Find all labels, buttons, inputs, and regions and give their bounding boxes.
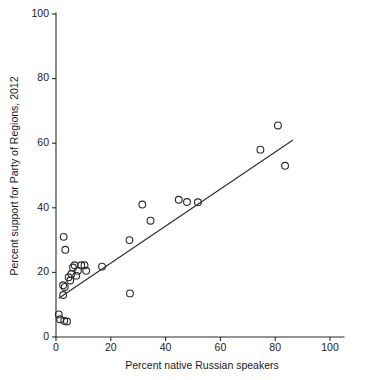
regression-line-group [59,140,293,298]
y-tick-label: 60 [37,136,49,148]
axes-group [56,13,344,337]
x-axis-label: Percent native Russian speakers [125,359,279,371]
scatter-chart: 020406080100 020406080100 Percent native… [0,0,367,380]
data-points-group [55,122,288,325]
data-point [147,217,154,224]
data-point [126,237,133,244]
y-tick-label: 20 [37,265,49,277]
data-point [60,282,67,289]
data-point [61,284,68,291]
x-tick-group: 020406080100 [53,337,339,353]
x-tick-label: 100 [321,341,339,353]
y-tick-label: 40 [37,201,49,213]
data-point [57,316,64,323]
y-tick-label: 80 [37,71,49,83]
y-tick-label: 100 [31,7,49,19]
regression-line [59,140,293,298]
data-point [184,199,191,206]
data-point [175,196,182,203]
y-tick-label: 0 [43,330,49,342]
data-point [282,162,289,169]
x-tick-label: 60 [215,341,227,353]
x-tick-label: 0 [53,341,59,353]
x-tick-label: 80 [269,341,281,353]
y-tick-group: 020406080100 [31,7,56,342]
data-point [70,264,77,271]
data-point [257,146,264,153]
x-tick-label: 40 [160,341,172,353]
y-axis-label: Percent support for Party of Regions, 20… [8,76,20,275]
data-point [139,201,146,208]
x-tick-label: 20 [105,341,117,353]
data-point [127,290,134,297]
data-point [60,233,67,240]
data-point [62,246,69,253]
data-point [275,122,282,129]
plot-area: 020406080100 020406080100 Percent native… [0,0,367,380]
